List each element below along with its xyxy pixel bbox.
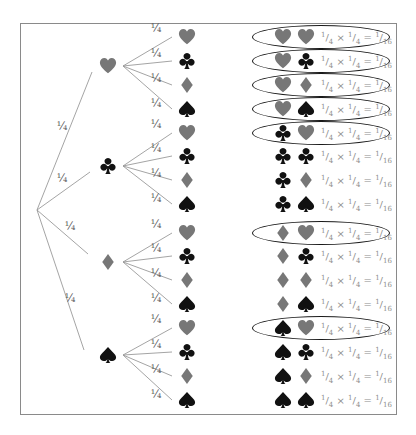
first-level-club-icon <box>99 157 117 175</box>
outcome-second-heart-icon <box>297 124 315 142</box>
outcome-second-club-icon <box>297 147 315 165</box>
outcome-first-diamond-icon <box>274 224 292 242</box>
branch-line <box>123 262 172 304</box>
first-level-probability: ¼ <box>65 293 76 304</box>
outcome-second-heart-icon <box>297 319 315 337</box>
second-level-probability: ¼ <box>151 143 162 154</box>
probability-equation: 1/4 × 1/4 = 1/16 <box>321 152 392 162</box>
probability-equation: 1/4 × 1/4 = 1/16 <box>321 396 392 406</box>
outcome-first-heart-icon <box>274 52 292 70</box>
outcome-first-diamond-icon <box>274 295 292 313</box>
branch-line <box>123 166 172 204</box>
probability-equation: 1/4 × 1/4 = 1/16 <box>321 372 392 382</box>
second-level-probability: ¼ <box>151 219 162 230</box>
branch-line <box>123 355 172 376</box>
outcome-second-diamond-icon <box>297 271 315 289</box>
second-level-heart-icon <box>178 319 196 337</box>
branch-line <box>123 256 172 262</box>
probability-equation: 1/4 × 1/4 = 1/16 <box>321 81 392 91</box>
probability-equation: 1/4 × 1/4 = 1/16 <box>321 129 392 139</box>
first-level-probability: ¼ <box>65 221 76 232</box>
second-level-spade-icon <box>178 391 196 409</box>
probability-equation: 1/4 × 1/4 = 1/16 <box>321 348 392 358</box>
outcome-first-club-icon <box>274 124 292 142</box>
outcome-second-spade-icon <box>297 391 315 409</box>
second-level-diamond-icon <box>178 367 196 385</box>
second-level-club-icon <box>178 147 196 165</box>
second-level-probability: ¼ <box>151 23 162 34</box>
first-level-diamond-icon <box>99 253 117 271</box>
branch-line <box>123 355 172 400</box>
branch-line <box>123 262 172 280</box>
probability-equation: 1/4 × 1/4 = 1/16 <box>321 252 392 262</box>
second-level-diamond-icon <box>178 171 196 189</box>
second-level-heart-icon <box>178 28 196 46</box>
second-level-probability: ¼ <box>151 389 162 400</box>
outcome-second-club-icon <box>297 247 315 265</box>
second-level-probability: ¼ <box>151 48 162 59</box>
probability-equation: 1/4 × 1/4 = 1/16 <box>321 57 392 67</box>
second-level-club-icon <box>178 247 196 265</box>
outcome-first-spade-icon <box>274 391 292 409</box>
second-level-spade-icon <box>178 295 196 313</box>
second-level-heart-icon <box>178 224 196 242</box>
outcome-second-spade-icon <box>297 295 315 313</box>
probability-equation: 1/4 × 1/4 = 1/16 <box>321 33 392 43</box>
second-level-spade-icon <box>178 195 196 213</box>
second-level-probability: ¼ <box>151 268 162 279</box>
probability-equation: 1/4 × 1/4 = 1/16 <box>321 229 392 239</box>
probability-equation: 1/4 × 1/4 = 1/16 <box>321 300 392 310</box>
second-level-probability: ¼ <box>151 193 162 204</box>
branch-line <box>123 352 172 355</box>
branch-line <box>37 210 84 350</box>
branch-line <box>37 72 92 210</box>
second-level-probability: ¼ <box>151 98 162 109</box>
outcome-first-spade-icon <box>274 343 292 361</box>
second-level-club-icon <box>178 343 196 361</box>
outcome-first-heart-icon <box>274 28 292 46</box>
outcome-second-diamond-icon <box>297 171 315 189</box>
second-level-diamond-icon <box>178 76 196 94</box>
branch-line <box>123 233 172 262</box>
branch-line <box>123 66 172 109</box>
outcome-first-heart-icon <box>274 76 292 94</box>
outcome-second-spade-icon <box>297 195 315 213</box>
outcome-first-club-icon <box>274 147 292 165</box>
second-level-probability: ¼ <box>151 339 162 350</box>
outcome-first-club-icon <box>274 195 292 213</box>
outcome-first-club-icon <box>274 171 292 189</box>
outcome-second-heart-icon <box>297 28 315 46</box>
second-level-probability: ¼ <box>151 293 162 304</box>
second-level-probability: ¼ <box>151 168 162 179</box>
outcome-first-diamond-icon <box>274 247 292 265</box>
outcome-first-spade-icon <box>274 319 292 337</box>
probability-equation: 1/4 × 1/4 = 1/16 <box>321 324 392 334</box>
probability-equation: 1/4 × 1/4 = 1/16 <box>321 105 392 115</box>
probability-equation: 1/4 × 1/4 = 1/16 <box>321 200 392 210</box>
second-level-diamond-icon <box>178 271 196 289</box>
outcome-second-diamond-icon <box>297 76 315 94</box>
second-level-heart-icon <box>178 124 196 142</box>
branch-line <box>123 66 172 85</box>
branch-line <box>123 328 172 355</box>
second-level-probability: ¼ <box>151 364 162 375</box>
outcome-second-heart-icon <box>297 224 315 242</box>
outcome-second-club-icon <box>297 343 315 361</box>
outcome-second-spade-icon <box>297 100 315 118</box>
first-level-probability: ¼ <box>57 121 68 132</box>
second-level-probability: ¼ <box>151 243 162 254</box>
second-level-probability: ¼ <box>151 73 162 84</box>
first-level-heart-icon <box>99 57 117 75</box>
first-level-spade-icon <box>99 346 117 364</box>
outcome-first-diamond-icon <box>274 271 292 289</box>
outcome-second-club-icon <box>297 52 315 70</box>
second-level-probability: ¼ <box>151 119 162 130</box>
second-level-club-icon <box>178 52 196 70</box>
probability-equation: 1/4 × 1/4 = 1/16 <box>321 176 392 186</box>
probability-equation: 1/4 × 1/4 = 1/16 <box>321 276 392 286</box>
outcome-first-spade-icon <box>274 367 292 385</box>
outcome-first-heart-icon <box>274 100 292 118</box>
second-level-probability: ¼ <box>151 314 162 325</box>
branch-line <box>123 166 172 180</box>
second-level-spade-icon <box>178 100 196 118</box>
